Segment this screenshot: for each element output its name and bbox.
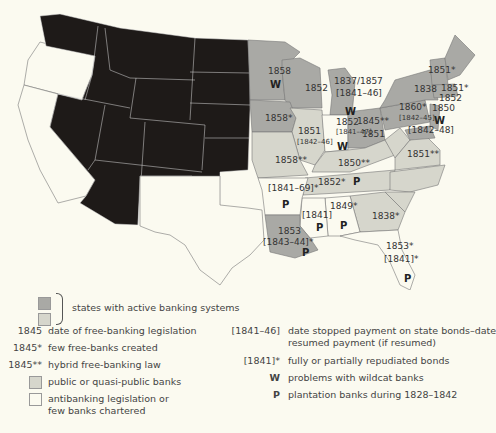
map-label-fl-stop: [1841]* <box>384 254 419 264</box>
map-label-al-date: 1849* <box>330 201 358 211</box>
map-label-ny-date: 1838 <box>414 84 437 94</box>
map-label-mo-date: 1858** <box>275 155 307 165</box>
map-label-ar-stop: [1841–69]* <box>268 183 319 193</box>
map-label-ct-date: 1852 <box>439 93 462 103</box>
map-label-fl-p: P <box>404 273 411 284</box>
map-label-va-date: 1851** <box>407 149 439 159</box>
map-label-ky-date: 1850** <box>338 158 370 168</box>
map-label-md-stop: [1842–48] <box>408 125 454 135</box>
map-label-la-stop: [1843–44]* <box>263 237 314 247</box>
map-label-vt-date: 1851* <box>428 65 456 75</box>
map-label-ms-stop: [1841] <box>302 210 332 220</box>
legend-item: 1845date of free-banking legislation <box>0 325 197 337</box>
map-label-pa-date: 1860* <box>399 102 427 112</box>
map-label-al-p: P <box>340 220 347 231</box>
legend-item: 1845**hybrid free-banking law <box>0 359 161 371</box>
legend-item: Wproblems with wildcat banks <box>210 372 424 384</box>
map-label-la-p: P <box>302 247 309 258</box>
map-label-ms-p: P <box>316 222 323 233</box>
map-label-ga-date: 1838* <box>372 211 400 221</box>
legend-item-cont: resumed payment (if resumed) <box>288 337 436 349</box>
map-label-in-date: 1852 <box>336 117 359 127</box>
map-label-mn-date: 1858 <box>268 66 291 76</box>
map-label-ia-date: 1858* <box>265 113 293 123</box>
legend-item: [1841–46]date stopped payment on state b… <box>210 325 496 337</box>
legend-item: 1845*few free-banks created <box>0 342 158 354</box>
map-label-in-w: W <box>337 141 348 152</box>
map-label-pa-stop: [1842–45] <box>399 114 435 122</box>
map-label-mi-stop: [1841–46] <box>336 88 382 98</box>
map-label-mn-w: W <box>270 79 281 90</box>
map-label-ar-p: P <box>282 199 289 210</box>
map-label-il-date: 1851 <box>298 126 321 136</box>
map-label-oh-date: 1845** <box>357 116 389 126</box>
map-label-il-stop: [1842–46] <box>297 138 333 146</box>
map-label-ma-date: 1851* <box>441 83 469 93</box>
legend-item: public or quasi-public banks <box>0 376 181 389</box>
legend-item: Pplantation banks during 1828–1842 <box>210 389 457 401</box>
map-label-mi-date: 1837/1857 <box>334 76 383 86</box>
map-label-mi-w: W <box>345 106 356 117</box>
map-label-la-date: 1853 <box>278 226 301 236</box>
map-label-fl-date: 1853* <box>386 241 414 251</box>
map-label-tn-date: 1852* <box>318 177 346 187</box>
map-label-tn-p: P <box>353 176 360 187</box>
legend-item-cont: few banks chartered <box>48 405 145 417</box>
legend-brace <box>56 293 63 325</box>
legend-active-systems: states with active banking systems <box>72 302 239 314</box>
map-label-nj-date: 1850 <box>432 103 455 113</box>
map-label-oh-date2: 1851 <box>362 129 385 139</box>
state-texas <box>140 176 264 285</box>
map-label-wi-date: 1852 <box>305 83 328 93</box>
legend-item: [1841]*fully or partially repudiated bon… <box>210 355 449 367</box>
us-banking-map: 1858W18521837/1857[1841–46]W1858*1851[18… <box>0 0 495 290</box>
